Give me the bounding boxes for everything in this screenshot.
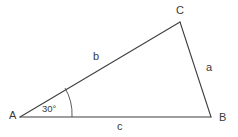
vertex-label-a: A (9, 109, 17, 121)
triangle-figure: A B C a b c 30° (0, 0, 238, 137)
vertex-label-c: C (176, 4, 184, 16)
vertex-label-b: B (219, 111, 226, 123)
side-label-b: b (93, 50, 99, 62)
side-label-c: c (117, 120, 123, 132)
angle-label-a: 30° (42, 103, 57, 114)
angle-arc-a (65, 88, 72, 117)
side-label-a: a (206, 61, 213, 73)
